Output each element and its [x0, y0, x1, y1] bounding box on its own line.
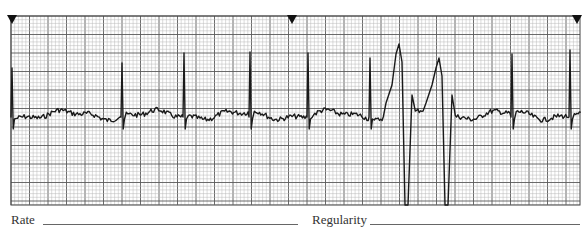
rate-label: Rate: [11, 212, 35, 228]
regularity-input-line[interactable]: [370, 224, 580, 225]
ecg-rhythm-strip: [0, 0, 585, 229]
regularity-field: Regularity: [312, 210, 580, 228]
regularity-label: Regularity: [312, 212, 367, 228]
rate-input-line[interactable]: [43, 224, 298, 225]
rate-field: Rate: [11, 210, 298, 228]
